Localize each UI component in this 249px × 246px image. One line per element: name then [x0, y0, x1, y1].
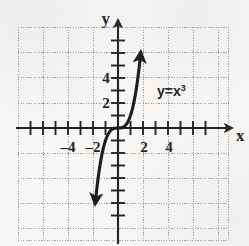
x-tick-label-neg2: –2: [85, 139, 101, 155]
curve-equation-label: y=x3: [157, 83, 186, 99]
x-tick-label-neg2-value: 2: [93, 139, 101, 155]
graph-figure: –4 –2 2 4 4 2 y x y=x3: [0, 0, 249, 246]
y-tick-label-2: 2: [102, 95, 110, 111]
curve-equation-exponent: 3: [181, 83, 186, 93]
svg-text:y=x3: y=x3: [157, 83, 186, 99]
x-tick-label-pos4: 4: [165, 139, 173, 155]
x-axis-label: x: [236, 126, 245, 145]
x-tick-label-neg4: –4: [60, 139, 77, 155]
y-axis-label: y: [102, 9, 111, 28]
y-tick-labels: 4 2: [102, 70, 110, 111]
coordinate-plane: –4 –2 2 4 4 2 y x y=x3: [0, 0, 249, 246]
y-tick-label-4: 4: [102, 70, 110, 86]
curve-equation-base: y=x: [157, 83, 181, 99]
grid-lines: [18, 27, 228, 240]
x-tick-label-pos2: 2: [140, 139, 148, 155]
x-tick-label-neg4-value: 4: [68, 139, 76, 155]
